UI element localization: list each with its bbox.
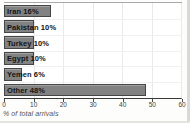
scan-edge-right [187, 0, 190, 123]
x-tick-label: 50 [149, 101, 156, 108]
bar-row: Pakistan 10% [4, 19, 181, 35]
x-tick-label: 40 [119, 101, 126, 108]
x-tick-label: 60 [178, 101, 185, 108]
bar-row: Iran 16% [4, 3, 181, 19]
bar-label: Yemen 6% [7, 70, 45, 79]
x-axis-label: % of total arrivals [3, 110, 59, 117]
bar-row: Egypt 10% [4, 50, 181, 66]
bar-row: Other 48% [4, 82, 181, 98]
x-tick-label: 20 [60, 101, 67, 108]
bar-row: Yemen 6% [4, 66, 181, 82]
gridline-vertical [181, 3, 182, 98]
bar-label: Egypt 10% [7, 54, 46, 63]
x-tick-label: 30 [89, 101, 96, 108]
x-tick-label: 0 [2, 101, 6, 108]
bar-chart: Iran 16%Pakistan 10%Turkey 10%Egypt 10%Y… [0, 0, 190, 123]
bar-label: Pakistan 10% [7, 22, 56, 31]
scan-edge-bottom [0, 121, 190, 123]
bar-label: Turkey 10% [7, 38, 49, 47]
bar-label: Other 48% [7, 86, 45, 95]
bar-row: Turkey 10% [4, 35, 181, 51]
bar-rows: Iran 16%Pakistan 10%Turkey 10%Egypt 10%Y… [4, 3, 181, 98]
x-axis: 0102030405060 [4, 99, 182, 110]
plot-area: Iran 16%Pakistan 10%Turkey 10%Egypt 10%Y… [4, 2, 182, 99]
bar-label: Iran 16% [7, 6, 39, 15]
x-tick-label: 10 [30, 101, 37, 108]
